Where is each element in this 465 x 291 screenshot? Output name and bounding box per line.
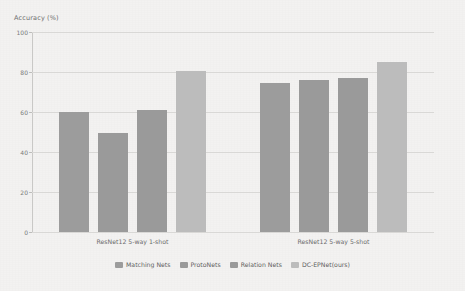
y-tick-mark-20: [29, 192, 32, 193]
legend-item-1[interactable]: Matching Nets: [115, 261, 171, 268]
y-tick-label-0: 0: [24, 229, 28, 236]
bar-relation-nets-group-1: [137, 110, 167, 232]
x-axis-group-label-1: ResNet12 5-way 1-shot: [97, 238, 169, 245]
gridline-20: 20: [32, 192, 434, 193]
legend-label: Relation Nets: [241, 261, 282, 268]
gridline-60: 60: [32, 112, 434, 113]
y-axis-line: [32, 32, 33, 232]
legend-item-4[interactable]: DC-EPNet(ours): [291, 261, 350, 268]
y-tick-mark-80: [29, 72, 32, 73]
bar-relation-nets-group-2: [338, 78, 368, 232]
bar-protonets-group-2: [299, 80, 329, 232]
plot-area: 020406080100 ResNet12 5-way 1-shotResNet…: [32, 32, 434, 232]
y-tick-label-20: 20: [20, 189, 28, 196]
legend-item-2[interactable]: ProtoNets: [180, 261, 221, 268]
gridline-40: 40: [32, 152, 434, 153]
legend-item-3[interactable]: Relation Nets: [230, 261, 282, 268]
bar-matching-nets-group-1: [59, 112, 89, 232]
gridline-100: 100: [32, 32, 434, 33]
bar-chart-figure: Accuracy (%) 020406080100 ResNet12 5-way…: [0, 0, 465, 291]
y-tick-mark-40: [29, 152, 32, 153]
bar-dc-epnet-ours-group-1: [176, 71, 206, 232]
y-tick-mark-0: [29, 232, 32, 233]
bar-protonets-group-1: [98, 133, 128, 232]
y-tick-label-40: 40: [20, 149, 28, 156]
legend-swatch-icon: [180, 262, 188, 268]
bar-matching-nets-group-2: [260, 83, 290, 232]
chart-legend: Matching NetsProtoNetsRelation NetsDC-EP…: [0, 261, 465, 268]
gridline-0: 0: [32, 232, 434, 233]
y-tick-mark-100: [29, 32, 32, 33]
legend-label: DC-EPNet(ours): [302, 261, 350, 268]
legend-label: Matching Nets: [126, 261, 171, 268]
bar-dc-epnet-ours-group-2: [377, 62, 407, 232]
legend-label: ProtoNets: [191, 261, 221, 268]
legend-swatch-icon: [291, 262, 299, 268]
y-tick-label-100: 100: [17, 29, 28, 36]
gridline-80: 80: [32, 72, 434, 73]
y-tick-mark-60: [29, 112, 32, 113]
x-axis-group-label-2: ResNet12 5-way 5-shot: [298, 238, 370, 245]
y-axis-title: Accuracy (%): [14, 14, 59, 22]
y-tick-label-60: 60: [20, 109, 28, 116]
legend-swatch-icon: [230, 262, 238, 268]
y-tick-label-80: 80: [20, 69, 28, 76]
legend-swatch-icon: [115, 262, 123, 268]
